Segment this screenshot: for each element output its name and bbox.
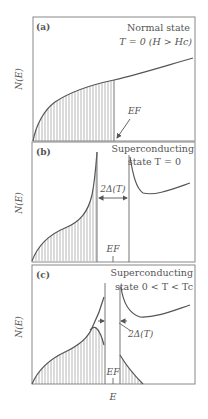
- panel-a-y-axis-label: N(E): [14, 68, 24, 91]
- panel-c-y-axis-label: N(E): [14, 316, 24, 339]
- panel-c-title-line2: state 0 < T < Tc: [115, 281, 193, 292]
- panel-a-title-line1: Normal state: [127, 22, 190, 33]
- panel-b-tag: (b): [36, 147, 51, 157]
- panel-c-gap-label: 2Δ(T): [127, 329, 154, 339]
- panel-a-fermi-arrow: [117, 119, 130, 138]
- panel-a-fermi-label: EF: [127, 106, 142, 116]
- panel-b-filled-states-hatch: [36, 60, 141, 400]
- panel-b-gap-label: 2Δ(T): [99, 184, 126, 194]
- panel-a-filled-states-hatch: [36, 60, 141, 400]
- panel-b-title-line2: state T = 0: [128, 156, 181, 167]
- panel-c-filled-states-hatch-above: [36, 60, 141, 400]
- panel-c-occupied-upper-curve: [120, 355, 143, 384]
- panel-b: (b) Superconducting state T = 0 N(E) 2Δ(…: [14, 60, 195, 400]
- panel-c: (c) Superconducting state 0 < T < Tc N(E…: [14, 60, 195, 400]
- panel-a-tag: (a): [36, 22, 50, 32]
- panel-b-title-line1: Superconducting: [111, 143, 194, 154]
- panel-c-tag: (c): [36, 270, 50, 280]
- panel-b-y-axis-label: N(E): [14, 192, 24, 215]
- dos-figure: (a) Normal state T = 0 (H > Hc) N(E) EF …: [0, 0, 208, 419]
- panel-a: (a) Normal state T = 0 (H > Hc) N(E) EF: [14, 17, 195, 400]
- panel-c-title-line1: Superconducting: [110, 267, 193, 278]
- panel-a-title-line2: T = 0 (H > Hc): [119, 36, 192, 47]
- panel-c-fermi-label: EF: [106, 367, 121, 377]
- panel-b-fermi-label: EF: [106, 244, 121, 254]
- panel-c-filled-states-hatch-below: [36, 60, 141, 400]
- x-axis-label: E: [109, 391, 117, 402]
